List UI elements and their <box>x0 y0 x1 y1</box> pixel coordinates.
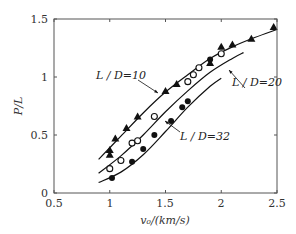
filled-circle-marker <box>129 159 135 165</box>
filled-circle-marker <box>168 118 174 124</box>
x-tick: 1.5 <box>156 197 174 210</box>
y-tick: 1.5 <box>31 13 49 26</box>
y-tick: 0 <box>41 187 48 200</box>
filled-circle-marker <box>109 175 115 181</box>
y-tick: 1 <box>41 71 48 84</box>
annotation-ld20: L / D=20 <box>231 76 282 89</box>
open-circle-marker <box>185 79 191 85</box>
open-circle-marker <box>218 51 224 57</box>
open-circle-marker <box>151 113 157 119</box>
plot-frame <box>54 19 277 193</box>
y-tick-labels: 0 0.5 1 1.5 <box>31 13 49 200</box>
x-tick: 1 <box>107 197 114 210</box>
annotation-ld10: L / D=10 <box>95 69 146 82</box>
y-tick: 0.5 <box>31 129 49 142</box>
open-circle-marker <box>107 166 113 172</box>
filled-circle-marker <box>151 132 157 138</box>
x-tick-labels: 0.5 1 1.5 2 2.5 <box>45 197 286 210</box>
annotation-ld32: L / D=32 <box>179 130 230 143</box>
open-circle-marker <box>196 65 202 71</box>
x-tick: 2.5 <box>268 197 286 210</box>
plot-area <box>54 19 278 193</box>
filled-circle-marker <box>179 104 185 110</box>
open-circle-marker <box>135 138 141 144</box>
triangle-marker <box>217 43 225 50</box>
x-axis-label: v₀/(km/s) <box>140 214 189 227</box>
triangle-marker <box>111 134 119 141</box>
arrowhead-icon <box>154 90 158 93</box>
filled-circle-marker <box>185 98 191 104</box>
chart: 0.5 1 1.5 2 2.5 0 0.5 1 1.5 v₀/(km/s) P/… <box>0 0 296 234</box>
filled-circle-marker <box>140 146 146 152</box>
filled-circle-marker <box>207 57 213 63</box>
triangle-marker <box>270 23 278 30</box>
open-circle-marker <box>118 158 124 164</box>
triangle-marker <box>228 41 236 48</box>
y-axis-label: P/L <box>12 97 25 116</box>
x-tick: 2 <box>218 197 225 210</box>
open-circle-marker <box>190 72 196 78</box>
